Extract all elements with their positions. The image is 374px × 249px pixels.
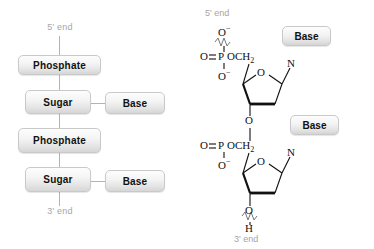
schematic-five-prime-label: 5' end [25, 22, 95, 32]
schematic-base-box-2[interactable]: Base [105, 170, 165, 192]
chemical-structure-panel: 5' end O− O P OCH2 O− O N O Base O P OCH… [187, 0, 374, 249]
connector-line-1 [59, 75, 60, 90]
phosphate-1-double-bond-o: O [200, 50, 208, 62]
structure-five-prime-label: 5' end [205, 8, 229, 18]
hydroxyl-hydrogen: H [245, 222, 253, 234]
sugar-2-ring-oxygen: O [257, 155, 265, 167]
connector-line-top [59, 36, 60, 55]
structure-base-box-1[interactable]: Base [282, 26, 331, 46]
schematic-sugar-box-2[interactable]: Sugar [25, 167, 91, 192]
phosphate-1-p-atom: P [218, 50, 224, 62]
schematic-three-prime-label: 3' end [25, 206, 95, 216]
sugar-2-three-prime-oxygen: O [245, 204, 253, 216]
bond-lines-svg [187, 0, 374, 249]
schematic-phosphate-box-1[interactable]: Phosphate [18, 55, 101, 75]
phosphate-1-o-minus-top: O− [218, 24, 230, 38]
sugar-1-glycosidic-nitrogen: N [287, 57, 295, 69]
connector-line-bottom [59, 192, 60, 206]
schematic-sugar-box-1[interactable]: Sugar [25, 90, 91, 114]
phosphate-2-double-bond-o: O [200, 139, 208, 151]
sugar-base-link-1 [91, 103, 105, 104]
sugar-base-link-2 [91, 181, 105, 182]
schematic-phosphate-box-2[interactable]: Phosphate [18, 128, 101, 153]
schematic-panel: 5' end Phosphate Sugar Phosphate Sugar B… [0, 0, 187, 249]
structure-three-prime-label: 3' end [234, 234, 258, 244]
phosphate-2-o-minus-bottom: O− [218, 157, 230, 171]
sugar-2-glycosidic-nitrogen: N [287, 146, 295, 158]
sugar-1-ring-oxygen: O [257, 66, 265, 78]
phosphate-1-o-minus-bottom: O− [218, 68, 230, 82]
schematic-base-box-1[interactable]: Base [105, 92, 165, 114]
connector-line-2 [59, 114, 60, 128]
structure-base-box-2[interactable]: Base [290, 115, 339, 135]
sugar-1-three-prime-oxygen: O [245, 114, 253, 126]
phosphate-2-p-atom: P [218, 139, 224, 151]
phosphate-2-och2: OCH2 [227, 139, 254, 154]
connector-line-3 [59, 153, 60, 167]
dna-backbone-figure: 5' end Phosphate Sugar Phosphate Sugar B… [0, 0, 374, 249]
phosphate-1-och2: OCH2 [227, 50, 254, 65]
